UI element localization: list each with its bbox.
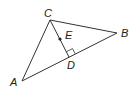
label-a: A — [9, 76, 17, 88]
segment-cb — [50, 20, 117, 33]
segment-ac — [22, 20, 50, 81]
label-b: B — [121, 27, 128, 39]
point-e-dot — [58, 37, 61, 40]
geometry-diagram: C B A D E — [0, 0, 139, 93]
label-d: D — [67, 59, 75, 71]
right-angle-marker-icon — [66, 49, 75, 54]
label-c: C — [44, 7, 52, 19]
triangle-figure: C B A D E — [0, 0, 139, 93]
label-e: E — [65, 29, 73, 41]
